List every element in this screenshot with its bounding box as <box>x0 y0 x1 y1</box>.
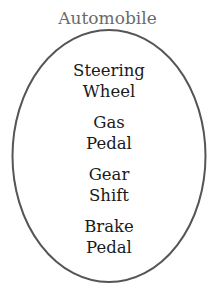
item-line2: Pedal <box>0 237 215 258</box>
item-line2: Pedal <box>0 133 215 154</box>
item-line1: Steering <box>0 60 215 81</box>
item-line2: Wheel <box>0 81 215 102</box>
item-gas-pedal: Gas Pedal <box>0 112 215 154</box>
item-line1: Gear <box>0 164 215 185</box>
item-line1: Brake <box>0 216 215 237</box>
item-gear-shift: Gear Shift <box>0 164 215 206</box>
item-list: Steering Wheel Gas Pedal Gear Shift Brak… <box>0 60 215 268</box>
item-line2: Shift <box>0 185 215 206</box>
item-brake-pedal: Brake Pedal <box>0 216 215 258</box>
item-steering-wheel: Steering Wheel <box>0 60 215 102</box>
item-line1: Gas <box>0 112 215 133</box>
